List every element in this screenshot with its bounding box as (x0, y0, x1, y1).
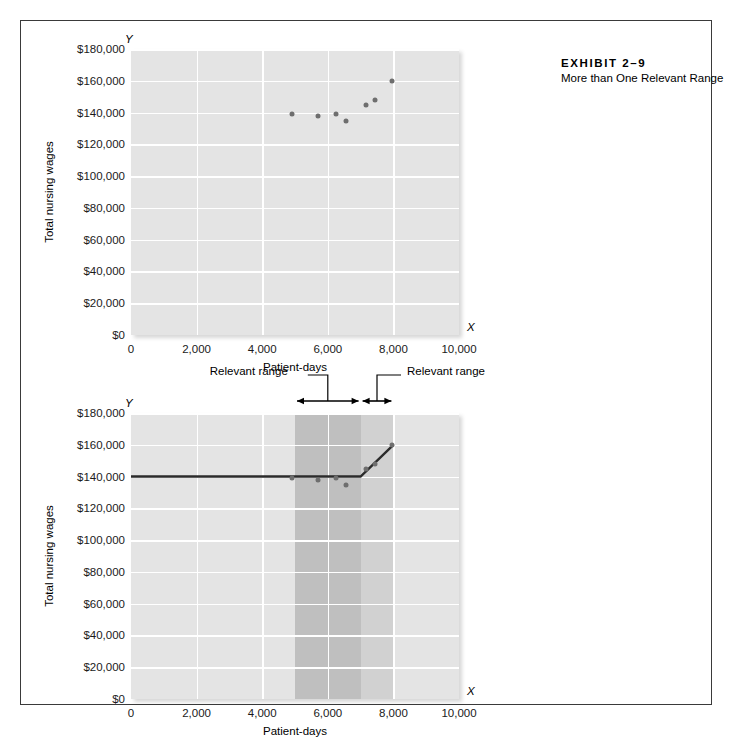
y-axis-title: Total nursing wages (43, 141, 55, 243)
x-axis-tick-label: 10,000 (441, 343, 476, 355)
plot-area-top (131, 49, 459, 335)
y-axis-tick-label: $60,000 (83, 234, 125, 246)
x-axis-tick-label: 2,000 (182, 343, 211, 355)
x-axis-tick-label: 0 (128, 707, 134, 719)
y-axis-title: Total nursing wages (43, 505, 55, 607)
data-point (363, 466, 368, 471)
gridline-vertical (393, 49, 395, 335)
gridline-horizontal (131, 240, 459, 242)
data-point (289, 112, 294, 117)
gridline-horizontal (131, 208, 459, 210)
relevant-range-1-arrow (297, 398, 359, 404)
x-axis-tick-label: 4,000 (248, 707, 277, 719)
y-axis-tick-label: $20,000 (83, 297, 125, 309)
y-axis-tick-label: $140,000 (77, 471, 125, 483)
x-axis-tick-label: 10,000 (441, 707, 476, 719)
gridline-vertical (262, 413, 264, 699)
gridline-horizontal (131, 113, 459, 115)
y-axis-letter: Y (125, 33, 133, 45)
y-axis-tick-label: $80,000 (83, 202, 125, 214)
y-axis-tick-label: $160,000 (77, 439, 125, 451)
gridline-vertical (197, 49, 199, 335)
y-axis-tick-label: $40,000 (83, 265, 125, 277)
gridline-horizontal (131, 271, 459, 273)
gridline-horizontal (131, 303, 459, 305)
data-point (315, 113, 320, 118)
x-axis-tick-label: 2,000 (182, 707, 211, 719)
relevant-range-2-label: Relevant range (407, 365, 485, 377)
gridline-horizontal (131, 176, 459, 178)
y-axis-tick-label: $0 (112, 693, 125, 705)
relevant-range-2-leader (377, 375, 401, 401)
y-axis-tick-label: $100,000 (77, 170, 125, 182)
x-axis-letter: X (467, 321, 475, 333)
x-axis-title: Patient-days (131, 725, 459, 737)
gridline-vertical (328, 413, 330, 699)
gridline-horizontal (131, 445, 459, 447)
gridline-horizontal (131, 413, 459, 415)
gridline-vertical (328, 49, 330, 335)
x-axis-tick-label: 6,000 (313, 343, 342, 355)
y-axis-tick-label: $20,000 (83, 661, 125, 673)
x-axis-letter: X (467, 685, 475, 697)
relevant-range-2-arrow (363, 398, 392, 404)
data-point (373, 97, 378, 102)
y-axis-tick-label: $80,000 (83, 566, 125, 578)
relevant-range-1-leader (308, 375, 328, 401)
gridline-horizontal (131, 81, 459, 83)
data-point (373, 461, 378, 466)
exhibit-frame: EXHIBIT 2–9 More than One Relevant Range… (20, 20, 712, 705)
gridline-horizontal (131, 635, 459, 637)
data-point (315, 477, 320, 482)
gridline-horizontal (131, 604, 459, 606)
data-point (343, 482, 348, 487)
x-axis-tick-label: 0 (128, 343, 134, 355)
y-axis-tick-label: $120,000 (77, 502, 125, 514)
exhibit-title: EXHIBIT 2–9 (561, 57, 729, 69)
data-point (289, 476, 294, 481)
x-axis-tick-label: 8,000 (379, 343, 408, 355)
y-axis-tick-label: $40,000 (83, 629, 125, 641)
gridline-horizontal (131, 540, 459, 542)
gridline-horizontal (131, 667, 459, 669)
data-point (343, 118, 348, 123)
plot-area-bottom (131, 413, 459, 699)
y-axis-tick-label: $60,000 (83, 598, 125, 610)
relevant-range-1-label: Relevant range (210, 365, 288, 377)
gridline-horizontal (131, 508, 459, 510)
y-axis-tick-label: $0 (112, 329, 125, 341)
gridline-vertical (262, 49, 264, 335)
gridline-horizontal (131, 572, 459, 574)
line-chart-bottom: $0$20,000$40,000$60,000$80,000$100,000$1… (21, 371, 501, 706)
y-axis-tick-label: $100,000 (77, 534, 125, 546)
y-axis-tick-label: $180,000 (77, 43, 125, 55)
x-axis-tick-label: 8,000 (379, 707, 408, 719)
y-axis-tick-label: $160,000 (77, 75, 125, 87)
x-axis-tick-label: 6,000 (313, 707, 342, 719)
data-point (334, 476, 339, 481)
data-point (334, 112, 339, 117)
gridline-horizontal (131, 144, 459, 146)
scatter-chart-top: $0$20,000$40,000$60,000$80,000$100,000$1… (21, 21, 501, 371)
y-axis-tick-label: $180,000 (77, 407, 125, 419)
exhibit-subtitle: More than One Relevant Range (561, 71, 729, 85)
relevant-range-2-band (361, 413, 394, 699)
gridline-horizontal (131, 477, 459, 479)
data-point (389, 78, 394, 83)
gridline-horizontal (131, 49, 459, 51)
y-axis-tick-label: $140,000 (77, 107, 125, 119)
gridline-vertical (197, 413, 199, 699)
gridline-vertical (393, 413, 395, 699)
data-point (389, 442, 394, 447)
x-axis-tick-label: 4,000 (248, 343, 277, 355)
data-point (363, 102, 368, 107)
y-axis-letter: Y (125, 397, 133, 409)
y-axis-tick-label: $120,000 (77, 138, 125, 150)
exhibit-caption: EXHIBIT 2–9 More than One Relevant Range (561, 57, 729, 85)
